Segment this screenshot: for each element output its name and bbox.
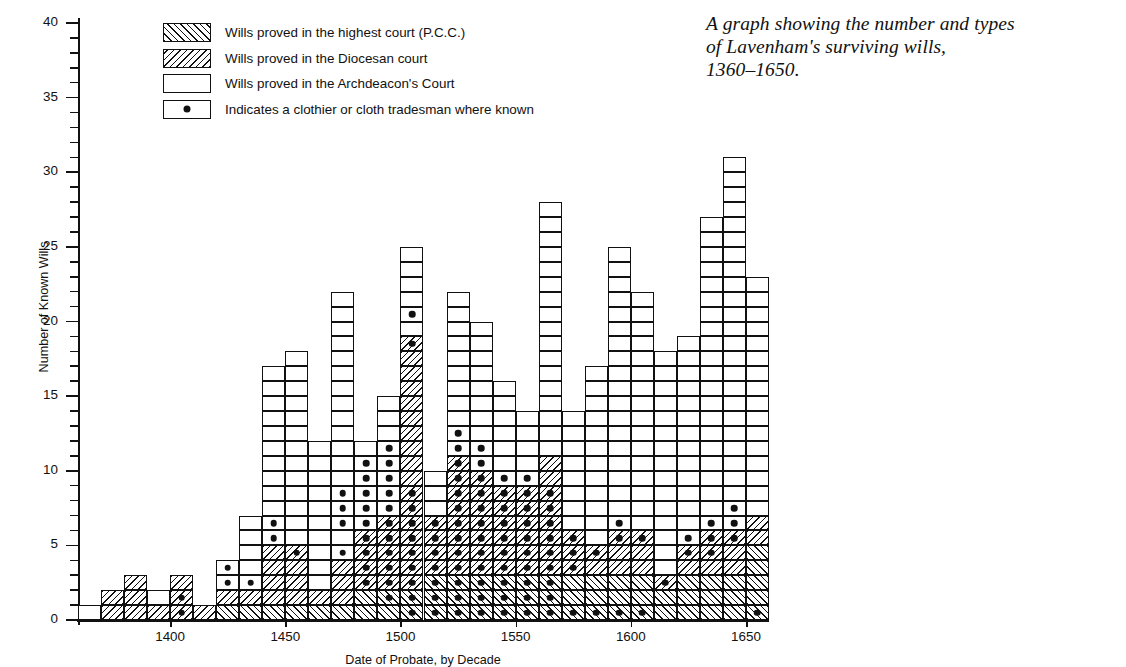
bar-cell-pcc bbox=[631, 605, 654, 620]
bar-cell-archdeacon bbox=[470, 441, 493, 456]
bar-cell-archdeacon bbox=[331, 516, 354, 531]
bar-cell-diocesan bbox=[470, 471, 493, 486]
clothier-dot-icon bbox=[386, 550, 393, 557]
bar-cell-pcc bbox=[585, 605, 608, 620]
bar-cell-archdeacon bbox=[539, 217, 562, 232]
bar-decade-1600[interactable] bbox=[631, 292, 654, 620]
bar-cell-archdeacon bbox=[424, 501, 447, 516]
bar-cell-archdeacon bbox=[470, 322, 493, 337]
bar-cell-diocesan bbox=[354, 530, 377, 545]
bar-decade-1550[interactable] bbox=[516, 411, 539, 620]
clothier-dot-icon bbox=[501, 475, 508, 482]
bar-decade-1440[interactable] bbox=[262, 366, 285, 620]
bar-cell-diocesan bbox=[447, 486, 470, 501]
bar-cell-archdeacon bbox=[677, 471, 700, 486]
bar-cell-diocesan bbox=[239, 590, 262, 605]
bar-decade-1520[interactable] bbox=[447, 292, 470, 620]
bar-decade-1450[interactable] bbox=[285, 351, 308, 620]
bar-cell-diocesan bbox=[331, 560, 354, 575]
clothier-dot-icon bbox=[363, 535, 370, 542]
bar-cell-archdeacon bbox=[677, 530, 700, 545]
bar-decade-1460[interactable] bbox=[308, 441, 331, 620]
bar-cell-diocesan bbox=[101, 605, 124, 620]
bar-cell-archdeacon bbox=[723, 307, 746, 322]
bar-cell-archdeacon bbox=[539, 426, 562, 441]
clothier-dot-icon bbox=[455, 550, 462, 557]
bar-decade-1410[interactable] bbox=[193, 605, 216, 620]
bar-cell-archdeacon bbox=[631, 411, 654, 426]
bar-decade-1430[interactable] bbox=[239, 516, 262, 620]
bar-cell-archdeacon bbox=[493, 381, 516, 396]
bar-cell-archdeacon bbox=[608, 366, 631, 381]
bar-cell-archdeacon bbox=[562, 456, 585, 471]
bar-cell-diocesan bbox=[377, 545, 400, 560]
bar-cell-archdeacon bbox=[723, 426, 746, 441]
bar-decade-1370[interactable] bbox=[101, 590, 124, 620]
bar-cell-pcc bbox=[562, 605, 585, 620]
bar-cell-archdeacon bbox=[331, 441, 354, 456]
clothier-dot-icon bbox=[455, 520, 462, 527]
bar-decade-1360[interactable] bbox=[78, 605, 101, 620]
bar-cell-archdeacon bbox=[377, 411, 400, 426]
bar-cell-archdeacon bbox=[262, 530, 285, 545]
bar-cell-archdeacon bbox=[746, 351, 769, 366]
bar-decade-1500[interactable] bbox=[400, 247, 423, 620]
bar-decade-1490[interactable] bbox=[377, 396, 400, 620]
bar-decade-1630[interactable] bbox=[700, 217, 723, 620]
bar-cell-archdeacon bbox=[723, 396, 746, 411]
clothier-dot-icon bbox=[708, 550, 715, 557]
clothier-dot-icon bbox=[547, 609, 554, 616]
bar-cell-archdeacon bbox=[585, 456, 608, 471]
bar-cell-archdeacon bbox=[285, 411, 308, 426]
bar-cell-diocesan bbox=[516, 560, 539, 575]
bar-cell-archdeacon bbox=[493, 426, 516, 441]
bar-decade-1470[interactable] bbox=[331, 292, 354, 620]
bar-decade-1480[interactable] bbox=[354, 441, 377, 620]
bar-decade-1590[interactable] bbox=[608, 247, 631, 620]
bar-decade-1580[interactable] bbox=[585, 366, 608, 620]
bar-decade-1400[interactable] bbox=[170, 575, 193, 620]
bar-cell-diocesan bbox=[700, 530, 723, 545]
bar-decade-1610[interactable] bbox=[654, 351, 677, 620]
bar-decade-1390[interactable] bbox=[147, 590, 170, 620]
bar-cell-diocesan bbox=[447, 471, 470, 486]
clothier-dot-icon bbox=[455, 430, 462, 437]
bar-decade-1570[interactable] bbox=[562, 411, 585, 620]
bar-cell-diocesan bbox=[447, 545, 470, 560]
bar-decade-1530[interactable] bbox=[470, 322, 493, 621]
bar-decade-1640[interactable] bbox=[723, 157, 746, 620]
bar-cell-archdeacon bbox=[654, 501, 677, 516]
clothier-dot-icon bbox=[616, 609, 623, 616]
bar-cell-diocesan bbox=[377, 575, 400, 590]
bar-decade-1380[interactable] bbox=[124, 575, 147, 620]
bar-cell-pcc bbox=[424, 575, 447, 590]
bar-decade-1510[interactable] bbox=[424, 471, 447, 620]
bar-cell-archdeacon bbox=[262, 486, 285, 501]
bar-cell-archdeacon bbox=[654, 471, 677, 486]
bar-decade-1560[interactable] bbox=[539, 202, 562, 620]
bar-cell-diocesan bbox=[400, 471, 423, 486]
bar-cell-diocesan bbox=[493, 560, 516, 575]
bar-cell-diocesan bbox=[193, 605, 216, 620]
bar-cell-archdeacon bbox=[285, 441, 308, 456]
bar-cell-diocesan bbox=[354, 545, 377, 560]
clothier-dot-icon bbox=[409, 564, 416, 571]
bar-decade-1620[interactable] bbox=[677, 336, 700, 620]
bar-cell-archdeacon bbox=[562, 426, 585, 441]
bar-cell-archdeacon bbox=[308, 530, 331, 545]
bar-cell-archdeacon bbox=[631, 381, 654, 396]
bar-cell-archdeacon bbox=[631, 322, 654, 337]
bar-cell-diocesan bbox=[285, 575, 308, 590]
clothier-dot-icon bbox=[409, 311, 416, 318]
bar-cell-archdeacon bbox=[216, 560, 239, 575]
bar-decade-1540[interactable] bbox=[493, 381, 516, 620]
bar-cell-archdeacon bbox=[331, 456, 354, 471]
bar-cell-pcc bbox=[354, 605, 377, 620]
bar-decade-1650[interactable] bbox=[746, 277, 769, 620]
clothier-dot-icon bbox=[409, 520, 416, 527]
bar-cell-archdeacon bbox=[308, 456, 331, 471]
bar-cell-archdeacon bbox=[400, 307, 423, 322]
bar-cell-archdeacon bbox=[700, 262, 723, 277]
bar-cell-pcc bbox=[516, 575, 539, 590]
bar-decade-1420[interactable] bbox=[216, 560, 239, 620]
